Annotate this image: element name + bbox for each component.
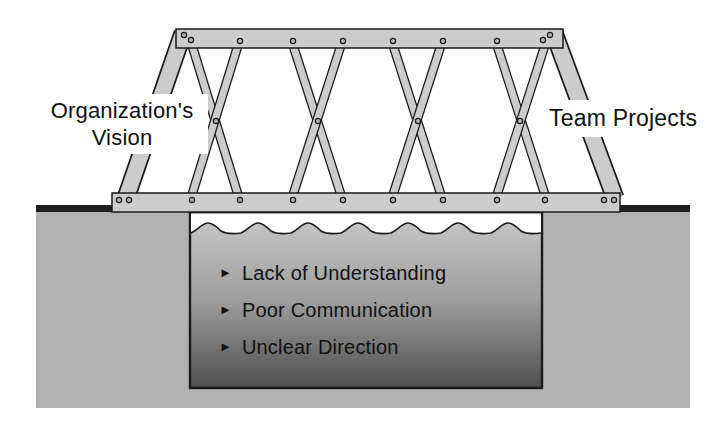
label-organizations-vision-line2: Vision <box>92 125 153 150</box>
top-chord <box>176 29 563 48</box>
truss-diagonals <box>191 42 546 198</box>
bullet-arrow-icon: ► <box>219 261 232 285</box>
issue-item: ► Unclear Direction <box>219 335 446 359</box>
issue-text: Poor Communication <box>242 299 432 322</box>
bullet-arrow-icon: ► <box>219 298 232 322</box>
issue-item: ► Lack of Understanding <box>219 261 446 285</box>
bullet-arrow-icon: ► <box>219 335 232 359</box>
underwater-issues-list: ► Lack of Understanding ► Poor Communica… <box>219 261 446 372</box>
issue-text: Unclear Direction <box>242 336 399 359</box>
diagram-canvas: Organization's Vision Team Projects ► La… <box>0 0 726 432</box>
label-organizations-vision-line1: Organization's <box>51 98 194 123</box>
label-organizations-vision: Organization's Vision <box>36 94 208 154</box>
issue-text: Lack of Understanding <box>242 262 446 285</box>
issue-item: ► Poor Communication <box>219 298 446 322</box>
label-team-projects: Team Projects <box>540 100 706 137</box>
